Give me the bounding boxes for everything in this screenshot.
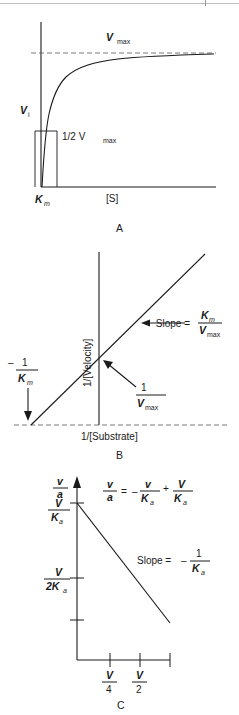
panel-c-x-tick1-numerator: V	[106, 669, 114, 681]
panel-a-michaelis-menten: V max V i 1/2 V max K m [S] A	[0, 0, 239, 240]
panel-c-plot: v a V K a V 2K a v a = – v K a	[0, 468, 239, 715]
enzyme-kinetics-figure: V max V i 1/2 V max K m [S] A	[0, 0, 239, 715]
panel-c-slope-annotation: Slope = – 1 K a	[137, 548, 210, 576]
panel-b-letter: B	[116, 449, 123, 461]
panel-c-y-intercept-denominator-sub: a	[59, 518, 63, 525]
panel-c-y-half-numerator: V	[55, 566, 63, 578]
panel-c-letter: C	[117, 699, 125, 711]
panel-b-yintercept-numerator: 1	[141, 382, 147, 393]
panel-b-yintercept-arrow-line	[108, 364, 136, 387]
panel-c-eq-term1-denominator: K	[141, 492, 150, 504]
panel-c-y-top-numerator: v	[57, 475, 64, 487]
panel-a-km-label-sub: m	[44, 200, 50, 207]
panel-a-half-vmax-text-sub: max	[103, 137, 117, 144]
panel-a-x-axis-label: [S]	[106, 193, 118, 204]
panel-c-eq-term1-numerator: v	[145, 478, 152, 490]
panel-c-slope-denominator: K	[192, 562, 201, 574]
panel-b-slope-label: Slope =	[156, 318, 190, 329]
panel-c-slope-denominator-sub: a	[201, 569, 205, 576]
panel-a-half-vmax-text: 1/2 V	[62, 131, 86, 142]
panel-b-regression-line	[31, 254, 205, 425]
panel-c-x-tick1-denominator: 4	[106, 684, 112, 695]
panel-c-slope-numerator: 1	[196, 548, 202, 559]
panel-c-eq-lhs-denominator: a	[107, 491, 113, 503]
panel-b-yintercept-denominator-sub: max	[145, 404, 159, 411]
panel-c-slope-sign: –	[181, 555, 187, 566]
panel-c-eq-term1-denominator-sub: a	[150, 499, 154, 506]
panel-b-yintercept-arrow-head	[103, 360, 113, 369]
panel-c-eq-minus: –	[132, 486, 138, 497]
panel-b-xintercept-sign: –	[8, 357, 14, 368]
panel-c-scatchard: v a V K a V 2K a v a = – v K a	[0, 468, 239, 715]
panel-c-eq-lhs-numerator: v	[107, 478, 114, 490]
panel-b-y-axis-label: 1/[Velocity]	[82, 338, 93, 387]
panel-a-vmax-label: V	[106, 31, 114, 43]
panel-c-y-axis-arrowhead	[73, 476, 81, 488]
panel-c-eq-term2-denominator: K	[174, 492, 183, 504]
panel-b-slope-denominator-sub: max	[207, 331, 221, 338]
panel-c-x-tick2-denominator: 2	[136, 684, 142, 695]
panel-c-x-tick2-numerator: V	[136, 669, 144, 681]
panel-c-y-half-denominator-sub: a	[63, 587, 67, 594]
panel-b-xintercept-numerator: 1	[22, 357, 28, 368]
panel-b-slope-arrow-head	[141, 320, 150, 327]
panel-b-xintercept-denominator-sub: m	[27, 379, 33, 386]
panel-a-letter: A	[116, 222, 123, 234]
panel-a-km-label: K	[35, 193, 44, 205]
panel-b-slope-numerator-sub: m	[209, 316, 215, 323]
panel-b-xintercept-arrow-head	[24, 411, 32, 421]
panel-b-slope-denominator: V	[199, 324, 207, 336]
panel-b-plot: Slope = K m V max 1/[Velocity] 1 V max –…	[0, 235, 239, 470]
panel-a-vmax-label-sub: max	[117, 38, 131, 45]
panel-c-slope-label: Slope =	[137, 555, 171, 566]
panel-a-y-axis-label: V	[20, 104, 28, 116]
panel-a-plot: V max V i 1/2 V max K m [S] A	[0, 0, 239, 240]
panel-c-eq-term2-denominator-sub: a	[183, 499, 187, 506]
panel-b-yintercept-denominator: V	[137, 397, 145, 409]
panel-b-x-axis-label: 1/[Substrate]	[81, 431, 138, 442]
panel-c-y-half-denominator: 2K	[45, 580, 61, 592]
panel-a-y-axis-label-sub: i	[28, 111, 30, 118]
panel-b-lineweaver-burk: Slope = K m V max 1/[Velocity] 1 V max –…	[0, 235, 239, 470]
panel-c-eq-plus: +	[163, 483, 169, 494]
panel-c-y-intercept-numerator: V	[55, 497, 63, 509]
panel-a-saturation-curve	[42, 54, 214, 187]
panel-c-equation: v a = – v K a + V K a	[103, 478, 193, 506]
panel-c-eq-equals: =	[121, 486, 127, 497]
panel-b-xintercept-denominator: K	[18, 372, 27, 384]
panel-c-eq-term2-numerator: V	[178, 478, 186, 490]
